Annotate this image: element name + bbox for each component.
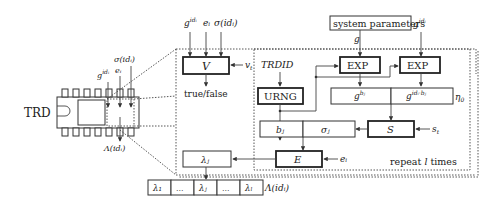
b-j-label: bⱼ: [276, 125, 285, 135]
protocol-diagram: TRD gidᵢ eᵢ σ(idᵢ): [0, 0, 492, 210]
chip-input-sigma: σ(idᵢ): [114, 55, 135, 64]
system-parameters-label: system parameters: [333, 18, 425, 29]
output-cell-1: λ₁: [152, 183, 162, 193]
output-cell-2: ...: [176, 184, 184, 193]
eta-label: η0: [455, 92, 464, 103]
sign-label: S: [387, 124, 394, 135]
g-label: g: [354, 34, 360, 44]
verify-section: gidᵢ eᵢ σ(idᵢ) V vt true/false: [183, 16, 253, 99]
exp-label-2: EXP: [407, 60, 428, 71]
verify-input-v: vt: [245, 60, 253, 71]
chip-core: [78, 100, 105, 125]
urng-label: URNG: [264, 91, 297, 102]
chip-output-lambda: Λ(idᵢ): [103, 144, 125, 153]
lambda-j-label: λⱼ: [200, 155, 210, 165]
verify-input-sigma: σ(idᵢ): [214, 18, 238, 28]
verify-output: true/false: [184, 89, 228, 99]
trd-label: TRD: [24, 106, 51, 120]
chip-input-e: eᵢ: [115, 66, 122, 75]
chip-input-g: gidᵢ: [97, 68, 110, 80]
verify-input-e: eᵢ: [203, 18, 210, 28]
s-t-input: st: [432, 124, 440, 135]
trd-chip: TRD gidᵢ eᵢ σ(idᵢ): [24, 49, 176, 175]
output-cell-5: λₗ: [244, 183, 252, 193]
chip-top-pins: [62, 89, 134, 97]
repeat-label: repeat l times: [390, 156, 457, 167]
sigma-j-label: σⱼ: [321, 125, 330, 135]
e-i-input: eᵢ: [340, 154, 347, 164]
output-array: λ₁ ... λⱼ ... λₗ Λ(idᵢ): [148, 180, 289, 195]
encrypt-label: E: [293, 154, 302, 165]
trdid-label: TRDID: [261, 59, 294, 70]
output-cell-4: ...: [222, 184, 230, 193]
verify-label: V: [202, 60, 211, 73]
output-array-label: Λ(idᵢ): [264, 183, 289, 193]
exp-label-1: EXP: [347, 60, 368, 71]
output-cell-3: λⱼ: [198, 183, 207, 193]
verify-input-g: gidᵢ: [184, 16, 198, 28]
